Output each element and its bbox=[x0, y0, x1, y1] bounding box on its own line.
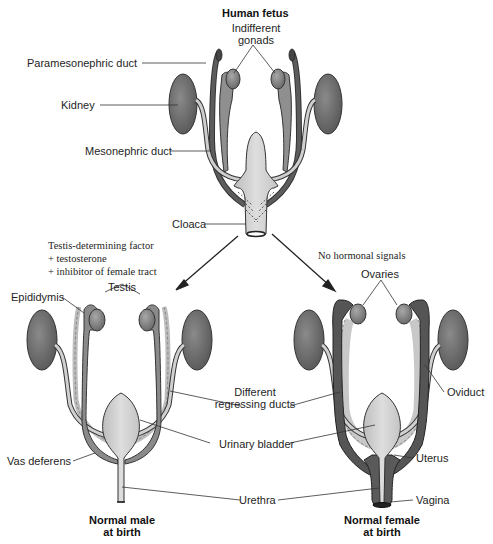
female-kidney-right bbox=[438, 310, 468, 370]
arrow-to-male bbox=[180, 236, 238, 286]
paramesonephric-duct-label: Paramesonephric duct bbox=[27, 57, 137, 69]
male-urinary-bladder bbox=[103, 393, 140, 502]
female-signal: No hormonal signals bbox=[318, 250, 406, 262]
fetus-kidney-left bbox=[169, 74, 197, 134]
indifferent-gonads-line1: Indifferent bbox=[226, 22, 286, 34]
male-signal-line3: + inhibitor of female tract bbox=[48, 266, 157, 278]
male-testis-left bbox=[89, 309, 105, 331]
female-oviduct-left bbox=[333, 300, 374, 475]
female-title-line1: Normal female bbox=[340, 514, 424, 526]
male-diagram bbox=[27, 305, 212, 502]
arrows bbox=[176, 234, 335, 291]
female-diagram bbox=[294, 300, 468, 508]
male-testis-right bbox=[139, 309, 155, 331]
female-oviduct-right bbox=[388, 300, 429, 475]
uterus-label: Uterus bbox=[416, 452, 448, 464]
female-title: Normal female at birth bbox=[340, 514, 424, 538]
fetus-kidney-right bbox=[314, 74, 342, 134]
female-ovary-left bbox=[350, 304, 366, 324]
regressing-ducts-label: Different regressing ducts bbox=[205, 386, 305, 410]
vagina-label: Vagina bbox=[416, 494, 449, 506]
indifferent-gonads-label: Indifferent gonads bbox=[226, 22, 286, 46]
cloaca-label: Cloaca bbox=[172, 218, 206, 230]
male-kidney-left bbox=[27, 310, 57, 370]
mesonephric-duct-label: Mesonephric duct bbox=[85, 145, 172, 157]
kidney-label: Kidney bbox=[61, 99, 95, 111]
regressing-ducts-line1: Different bbox=[205, 386, 305, 398]
urinary-bladder-label: Urinary bladder bbox=[219, 438, 294, 450]
male-kidney-right bbox=[182, 310, 212, 370]
ovaries-label: Ovaries bbox=[361, 268, 399, 280]
fetus-gonad-left bbox=[226, 69, 240, 89]
regressing-ducts-line2: regressing ducts bbox=[205, 398, 305, 410]
fetus-diagram bbox=[169, 49, 342, 237]
male-title-line1: Normal male bbox=[86, 514, 158, 526]
oviduct-label: Oviduct bbox=[447, 386, 484, 398]
fetus-cloaca bbox=[234, 132, 278, 236]
female-title-line2: at birth bbox=[340, 526, 424, 538]
fetus-title: Human fetus bbox=[222, 7, 289, 19]
indifferent-gonads-line2: gonads bbox=[226, 34, 286, 46]
vas-deferens-label: Vas deferens bbox=[7, 455, 71, 467]
male-signal-line2: + testosterone bbox=[48, 253, 107, 265]
male-title-line2: at birth bbox=[86, 526, 158, 538]
male-signal-line1: Testis-determining factor bbox=[48, 240, 154, 252]
fetus-gonad-right bbox=[271, 69, 285, 89]
urethra-label: Urethra bbox=[239, 494, 276, 506]
male-title: Normal male at birth bbox=[86, 514, 158, 538]
epididymis-label: Epididymis bbox=[11, 291, 64, 303]
female-ovary-right bbox=[396, 304, 412, 324]
female-kidney-left bbox=[294, 310, 324, 370]
testis-label: Testis bbox=[108, 281, 136, 293]
